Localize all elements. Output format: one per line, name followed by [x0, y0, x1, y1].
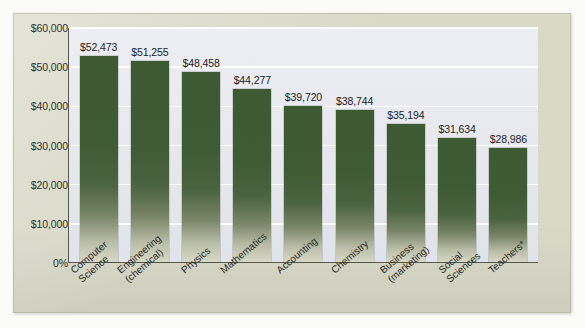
y-axis-tick-label: $30,000 — [13, 140, 68, 152]
bar-slot: $28,986 — [483, 28, 534, 262]
bar-slot: $38,744 — [329, 28, 380, 262]
bar[interactable]: $52,473 — [80, 56, 118, 262]
y-axis-tick-label: $40,000 — [13, 100, 68, 112]
chart-frame: 0%$10,000$20,000$30,000$40,000$50,000$60… — [13, 13, 571, 313]
bar-value-label: $44,277 — [234, 74, 271, 86]
x-axis-label-slot: SocialSciences — [434, 265, 486, 325]
bar[interactable]: $38,744 — [336, 110, 374, 262]
x-axis: ComputerScienceEngineering(chemical)Phys… — [68, 265, 538, 325]
y-axis-tick-label: $50,000 — [13, 61, 68, 73]
bar-value-label: $39,720 — [285, 91, 322, 103]
x-axis-label-slot: Engineering(chemical) — [120, 265, 172, 325]
x-axis-label-slot: Business(marketing) — [381, 265, 433, 325]
x-axis-label-slot: ComputerScience — [68, 265, 120, 325]
x-axis-label-slot: Mathematics — [225, 265, 277, 325]
bar[interactable]: $48,458 — [182, 72, 220, 262]
y-axis-tick-label: $60,000 — [13, 22, 68, 34]
bar-slot: $52,473 — [73, 28, 124, 262]
bar-value-label: $28,986 — [490, 133, 527, 145]
bar-value-label: $31,634 — [439, 123, 476, 135]
bar-slot: $48,458 — [175, 28, 226, 262]
y-axis-tick-label: $20,000 — [13, 179, 68, 191]
x-axis-label-slot: Accounting — [277, 265, 329, 325]
bar-value-label: $35,194 — [387, 109, 424, 121]
x-axis-label-slot: Chemistry — [329, 265, 381, 325]
bar-value-label: $38,744 — [336, 95, 373, 107]
bar-value-label: $52,473 — [80, 41, 117, 53]
bar-slot: $51,255 — [124, 28, 175, 262]
bar-slot: $31,634 — [432, 28, 483, 262]
x-axis-label-slot: Teachers* — [486, 265, 538, 325]
y-axis: 0%$10,000$20,000$30,000$40,000$50,000$60… — [13, 28, 68, 263]
bar-slot: $35,194 — [380, 28, 431, 262]
y-axis-tick-label: $10,000 — [13, 218, 68, 230]
bar-series: $52,473$51,255$48,458$44,277$39,720$38,7… — [69, 28, 538, 262]
x-axis-label-slot: Physics — [172, 265, 224, 325]
plot-area: $52,473$51,255$48,458$44,277$39,720$38,7… — [68, 28, 538, 263]
bar-slot: $44,277 — [227, 28, 278, 262]
bar[interactable]: $39,720 — [284, 106, 322, 262]
bar-value-label: $48,458 — [182, 57, 219, 69]
bar-value-label: $51,255 — [131, 46, 168, 58]
bar[interactable]: $51,255 — [131, 61, 169, 262]
chart-page: 0%$10,000$20,000$30,000$40,000$50,000$60… — [0, 0, 585, 328]
bar-slot: $39,720 — [278, 28, 329, 262]
y-axis-tick-label: 0% — [13, 257, 68, 269]
